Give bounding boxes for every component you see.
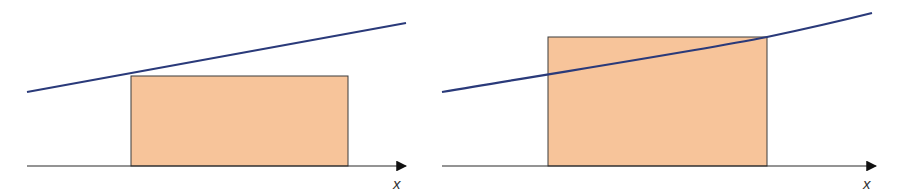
panel-left: x	[27, 23, 406, 192]
left-rectangle	[131, 76, 348, 166]
x-axis-label-right: x	[862, 175, 871, 192]
panel-right: x	[442, 13, 876, 192]
riemann-sum-diagram: x x	[0, 0, 900, 196]
x-axis-label-left: x	[392, 175, 401, 192]
